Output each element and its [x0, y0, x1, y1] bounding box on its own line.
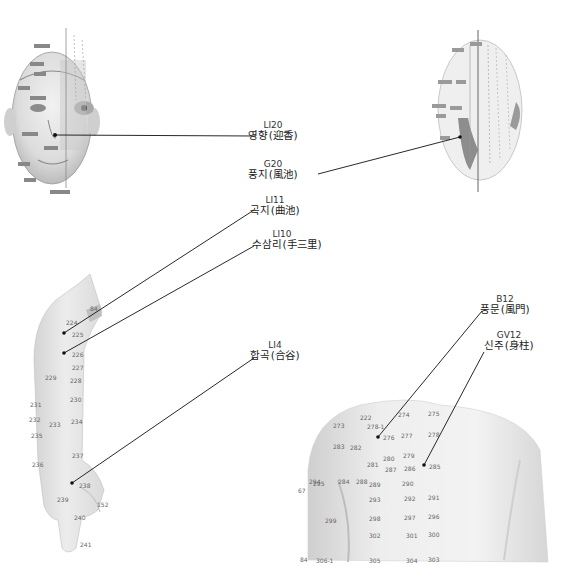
- arm-point: 231: [30, 401, 41, 408]
- back-point: 293: [369, 496, 380, 503]
- arm-point: 237: [72, 452, 83, 459]
- back-point: 281: [367, 461, 378, 468]
- arm-point: 235: [31, 432, 42, 439]
- back-point: 291: [428, 494, 439, 501]
- arm-point: 241: [80, 541, 91, 548]
- back-point: 304: [406, 557, 417, 564]
- back-point: 275: [428, 410, 439, 417]
- back-point: 287: [385, 466, 396, 473]
- arm-figure: [34, 274, 104, 552]
- arm-point: 225: [72, 331, 83, 338]
- back-point: 276: [383, 434, 394, 441]
- back-point: 305: [369, 557, 380, 564]
- back-point: 301: [406, 532, 417, 539]
- arm-point: 236: [32, 461, 43, 468]
- back-point: 278: [428, 431, 439, 438]
- label-g20: G20 풍지(風池): [248, 160, 298, 180]
- arm-point: 152: [97, 501, 108, 508]
- arm-point: 232: [29, 416, 40, 423]
- back-point: 279: [403, 452, 414, 459]
- label-gv12: GV12 신주(身柱): [484, 331, 534, 351]
- back-point: 286: [404, 465, 415, 472]
- back-point: 273: [333, 422, 344, 429]
- arm-point: 240: [74, 514, 85, 521]
- back-point: 290: [402, 480, 413, 487]
- back-point: 288: [356, 478, 367, 485]
- back-point: 299: [325, 517, 336, 524]
- point-name: 신주(身柱): [484, 340, 534, 351]
- label-li11: LI11 곡지(曲池): [250, 196, 300, 216]
- arm-point: 224: [66, 319, 77, 326]
- back-point: 282: [350, 444, 361, 451]
- back-point: 277: [401, 432, 412, 439]
- point-name: 수삼리(手三里): [252, 239, 312, 250]
- label-li10: LI10 수삼리(手三里): [252, 230, 312, 250]
- back-point: 274: [398, 411, 409, 418]
- back-point: 84: [300, 556, 308, 563]
- back-point: 280: [383, 455, 394, 462]
- back-point: 278-1: [367, 423, 384, 430]
- point-name: 곡지(曲池): [250, 205, 300, 216]
- label-li20: LI20 영향(迎香): [248, 121, 298, 141]
- figure-illustrations: [0, 0, 568, 587]
- arm-point: 229: [45, 374, 56, 381]
- arm-point: 233: [49, 421, 60, 428]
- back-point: 284: [338, 478, 349, 485]
- label-li4: LI4 합곡(合谷): [250, 341, 300, 361]
- point-name: 합곡(合谷): [250, 350, 300, 361]
- front-face-figure: [4, 28, 100, 194]
- back-point: 289: [369, 481, 380, 488]
- point-name: 풍지(風池): [248, 169, 298, 180]
- point-name: 영향(迎香): [248, 130, 298, 141]
- arm-point: 226: [72, 351, 83, 358]
- point-name: 풍문(風門): [480, 304, 530, 315]
- arm-point: 239: [57, 496, 68, 503]
- back-point: 298: [369, 515, 380, 522]
- back-point: 306-1: [316, 557, 333, 564]
- back-point: 302: [369, 532, 380, 539]
- back-point: 292: [404, 495, 415, 502]
- arm-point: 234: [71, 418, 82, 425]
- back-point: 67: [298, 487, 306, 494]
- back-point: 296: [428, 513, 439, 520]
- back-point: 283: [333, 443, 344, 450]
- arm-point: 84: [90, 305, 98, 312]
- back-point: 285: [429, 463, 440, 470]
- arm-point: 238: [79, 482, 90, 489]
- back-point: 303: [428, 556, 439, 563]
- back-point: 300: [428, 531, 439, 538]
- arm-point: 228: [70, 377, 81, 384]
- acupuncture-diagram: LI20 영향(迎香) G20 풍지(風池) LI11 곡지(曲池) LI10 …: [0, 0, 568, 587]
- label-b12: B12 풍문(風門): [480, 295, 530, 315]
- arm-point: 227: [72, 364, 83, 371]
- back-point: 295: [313, 480, 324, 487]
- arm-point: 230: [70, 396, 81, 403]
- back-point: 222: [360, 414, 371, 421]
- back-head-figure: [432, 30, 522, 192]
- back-point: 297: [404, 514, 415, 521]
